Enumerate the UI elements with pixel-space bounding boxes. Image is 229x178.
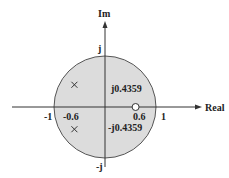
imaginary-axis-arrow-icon <box>103 21 108 28</box>
pole-real-part-label: -0.6 <box>63 111 79 122</box>
pole-imag-neg-label: -j0.4359 <box>108 122 142 133</box>
zero-marker-icon <box>132 104 139 111</box>
imaginary-axis-label: Im <box>98 8 111 19</box>
zero-value-label: 0.6 <box>133 111 146 122</box>
real-axis-label: Real <box>205 102 225 113</box>
tick-label-neg-j: -j <box>96 161 103 172</box>
pole-zero-diagram: Im Real j -j -1 1 -0.6 0.6 j0.4359 -j0.4… <box>0 0 229 178</box>
real-axis-arrow-icon <box>195 105 202 110</box>
tick-label-one: 1 <box>161 111 166 122</box>
tick-label-neg-one: -1 <box>44 111 52 122</box>
pole-imag-pos-label: j0.4359 <box>110 83 142 94</box>
tick-label-j: j <box>97 43 101 54</box>
